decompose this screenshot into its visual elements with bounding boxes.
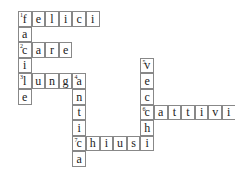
crossword-cell[interactable]: v bbox=[208, 105, 222, 121]
cell-letter: e bbox=[141, 75, 153, 87]
crossword-cell[interactable]: a bbox=[72, 151, 86, 167]
crossword-cell[interactable]: i bbox=[195, 105, 209, 121]
crossword-cell[interactable]: 5v bbox=[140, 58, 154, 74]
crossword-cell[interactable]: i bbox=[72, 120, 86, 136]
cell-letter: n bbox=[73, 91, 85, 103]
cell-letter: c bbox=[141, 91, 153, 103]
crossword-cell[interactable]: i bbox=[59, 11, 73, 27]
crossword-cell[interactable]: l bbox=[45, 11, 59, 27]
cell-letter: a bbox=[33, 44, 45, 56]
cell-letter: h bbox=[141, 122, 153, 134]
cell-letter: v bbox=[209, 106, 221, 118]
crossword-cell[interactable]: 4a bbox=[72, 73, 86, 89]
crossword-cell[interactable]: 3l bbox=[18, 73, 32, 89]
cell-letter: i bbox=[101, 137, 113, 149]
cell-letter: c bbox=[141, 106, 153, 118]
cell-letter: u bbox=[114, 137, 126, 149]
cell-letter: n bbox=[46, 75, 58, 87]
cell-letter: i bbox=[141, 137, 153, 149]
crossword-cell[interactable]: t bbox=[72, 105, 86, 121]
crossword-cell[interactable]: h bbox=[140, 120, 154, 136]
crossword-cell[interactable]: a bbox=[154, 105, 168, 121]
crossword-cell[interactable]: 1f bbox=[18, 11, 32, 27]
crossword-cell[interactable]: i bbox=[18, 58, 32, 74]
cell-letter: c bbox=[73, 13, 85, 25]
cell-letter: t bbox=[169, 106, 181, 118]
crossword-cell[interactable]: e bbox=[18, 89, 32, 105]
cell-letter: h bbox=[87, 137, 99, 149]
crossword-cell[interactable]: a bbox=[18, 27, 32, 43]
crossword-cell[interactable]: n bbox=[72, 89, 86, 105]
cell-letter: l bbox=[19, 75, 31, 87]
cell-letter: f bbox=[19, 13, 31, 25]
crossword-cell[interactable]: c bbox=[72, 11, 86, 27]
crossword-cell[interactable]: n bbox=[45, 73, 59, 89]
cell-letter: a bbox=[19, 28, 31, 40]
cell-letter: i bbox=[19, 59, 31, 71]
cell-letter: c bbox=[73, 137, 85, 149]
crossword-cell[interactable]: a bbox=[32, 42, 46, 58]
crossword-cell[interactable]: t bbox=[181, 105, 195, 121]
cell-letter: t bbox=[73, 106, 85, 118]
cell-letter: r bbox=[46, 44, 58, 56]
cell-letter: i bbox=[60, 13, 72, 25]
crossword-cell[interactable]: e bbox=[59, 42, 73, 58]
cell-letter: s bbox=[128, 137, 140, 149]
crossword-cell[interactable]: 2c bbox=[18, 42, 32, 58]
crossword-cell[interactable]: u bbox=[32, 73, 46, 89]
crossword-cell[interactable]: 6c bbox=[140, 105, 154, 121]
crossword-cell[interactable]: 7c bbox=[72, 136, 86, 152]
cell-letter: u bbox=[33, 75, 45, 87]
crossword-cell[interactable]: u bbox=[113, 136, 127, 152]
cell-letter: e bbox=[60, 44, 72, 56]
crossword-cell[interactable]: e bbox=[32, 11, 46, 27]
crossword-cell[interactable]: c bbox=[140, 89, 154, 105]
cell-letter: e bbox=[33, 13, 45, 25]
cell-letter: i bbox=[196, 106, 208, 118]
crossword-cell[interactable]: r bbox=[45, 42, 59, 58]
cell-letter: a bbox=[155, 106, 167, 118]
crossword-cell[interactable]: i bbox=[222, 105, 235, 121]
cell-letter: i bbox=[87, 13, 99, 25]
cell-letter: v bbox=[141, 59, 153, 71]
crossword-cell[interactable]: i bbox=[140, 136, 154, 152]
cell-letter: c bbox=[19, 44, 31, 56]
cell-letter: a bbox=[73, 75, 85, 87]
crossword-cell[interactable]: s bbox=[127, 136, 141, 152]
cell-letter: i bbox=[73, 122, 85, 134]
crossword-cell[interactable]: e bbox=[140, 73, 154, 89]
cell-letter: t bbox=[182, 106, 194, 118]
crossword-cell[interactable]: h bbox=[86, 136, 100, 152]
crossword-cell[interactable]: g bbox=[59, 73, 73, 89]
cell-letter: a bbox=[73, 153, 85, 165]
cell-letter: i bbox=[223, 106, 235, 118]
cell-letter: g bbox=[60, 75, 72, 87]
cell-letter: e bbox=[19, 91, 31, 103]
cell-letter: l bbox=[46, 13, 58, 25]
crossword-cell[interactable]: t bbox=[168, 105, 182, 121]
crossword-cell[interactable]: i bbox=[100, 136, 114, 152]
crossword-cell[interactable]: i bbox=[86, 11, 100, 27]
